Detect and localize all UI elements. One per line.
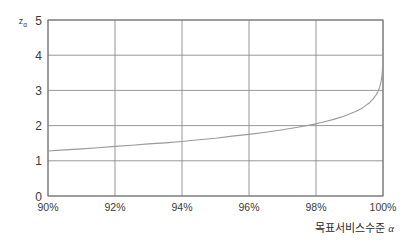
y-tick-label: 4 [35, 49, 42, 63]
x-tick-label: 90% [37, 201, 58, 213]
y-tick-label: 5 [35, 14, 42, 28]
y-tick-label: 3 [35, 84, 42, 98]
x-axis-label: 목표서비스수준 α [315, 222, 394, 234]
x-tick-label: 92% [104, 201, 125, 213]
service-level-z-chart: 012345 90%92%94%96%98%100% zα 목표서비스수준 α [0, 0, 414, 244]
y-tick-label: 1 [35, 154, 42, 168]
y-tick-label: 2 [35, 119, 42, 133]
x-tick-label: 98% [305, 201, 326, 213]
x-axis-label-alpha: α [388, 222, 394, 234]
chart-background [0, 0, 414, 244]
x-tick-label: 96% [238, 201, 259, 213]
x-tick-label: 94% [171, 201, 192, 213]
x-tick-label: 100% [370, 201, 397, 213]
chart-container: 012345 90%92%94%96%98%100% zα 목표서비스수준 α [0, 0, 414, 244]
